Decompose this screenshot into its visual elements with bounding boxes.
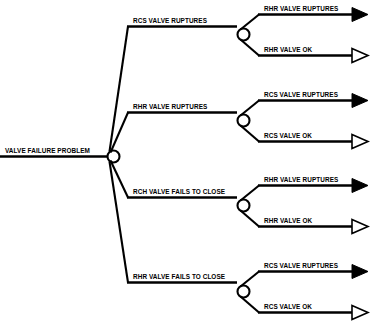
root-label: VALVE FAILURE PROBLEM — [5, 147, 90, 154]
filled-arrow-icon-1-1 — [352, 8, 368, 22]
outcome-connector-1-1 — [241, 15, 260, 30]
filled-arrow-icon-4-1 — [352, 265, 368, 279]
outcome-label-3-1: RHR VALVE RUPTURES — [264, 176, 339, 183]
root-node-group: VALVE FAILURE PROBLEM — [0, 147, 120, 163]
filled-arrow-icon-3-1 — [352, 179, 368, 193]
outcome-connector-4-1 — [241, 272, 260, 287]
outcome-connector-2-1 — [241, 101, 260, 116]
branch-junction-node-3[interactable] — [238, 200, 250, 212]
branch-label-2: RHR VALVE RUPTURES — [133, 103, 208, 110]
outcome-label-4-2: RCS VALVE OK — [264, 303, 312, 310]
branch-group-2: RHR VALVE RUPTURES RCS VALVE RUPTURES RC… — [111, 91, 369, 153]
outcome-label-1-2: RHR VALVE OK — [264, 46, 313, 53]
outcome-label-1-1: RHR VALVE RUPTURES — [264, 5, 339, 12]
outcome-label-2-1: RCS VALVE RUPTURES — [264, 91, 339, 98]
hollow-arrow-icon-2-2 — [352, 135, 368, 149]
outcome-connector-3-1 — [241, 186, 260, 201]
hollow-arrow-icon-4-2 — [352, 306, 368, 320]
branch-label-3: RCH VALVE FAILS TO CLOSE — [133, 188, 226, 195]
outcome-label-2-2: RCS VALVE OK — [264, 132, 312, 139]
branch-junction-node-1[interactable] — [238, 29, 250, 41]
outcome-connector-1-2 — [241, 40, 260, 56]
hollow-arrow-icon-1-2 — [352, 49, 368, 63]
branch-junction-node-2[interactable] — [238, 115, 250, 127]
filled-arrow-icon-2-1 — [352, 94, 368, 108]
outcome-label-3-2: RHR VALVE OK — [264, 217, 313, 224]
outcome-label-4-1: RCS VALVE RUPTURES — [264, 262, 339, 269]
branch-group-3: RCH VALVE FAILS TO CLOSE RHR VALVE RUPTU… — [111, 161, 369, 234]
branch-label-1: RCS VALVE RUPTURES — [133, 17, 208, 24]
outcome-connector-4-2 — [241, 297, 260, 313]
branch-label-4: RHR VALVE FAILS TO CLOSE — [133, 273, 226, 280]
branch-group-1: RCS VALVE RUPTURES RHR VALVE RUPTURES RH… — [110, 5, 369, 152]
branch-junction-node-4[interactable] — [238, 286, 250, 298]
hollow-arrow-icon-3-2 — [352, 220, 368, 234]
outcome-connector-2-2 — [241, 126, 260, 142]
outcome-connector-3-2 — [241, 211, 260, 227]
root-junction-node[interactable] — [108, 151, 120, 163]
event-tree-diagram: VALVE FAILURE PROBLEM RCS VALVE RUPTURES… — [0, 0, 377, 322]
